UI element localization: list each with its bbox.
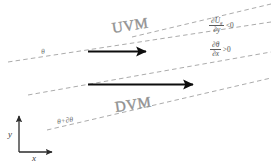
condition-theta-gradient: ∂θ ∂x >0 <box>210 41 231 58</box>
isentrope-line-3 <box>28 52 271 95</box>
fraction-denominator: ∂y <box>209 26 224 34</box>
x-axis-label: x <box>32 153 36 162</box>
fraction-dug-dy: ∂Ug ∂y <box>209 17 224 34</box>
fraction-denominator: ∂x <box>210 50 221 58</box>
isentrope-line-1 <box>132 4 271 37</box>
condition-wind-shear: ∂Ug ∂y <0 <box>209 17 234 34</box>
relation-greater-than-zero: >0 <box>223 45 231 54</box>
y-axis-label: y <box>8 129 12 139</box>
subscript-g: g <box>220 20 222 25</box>
flow-arrows <box>88 52 193 85</box>
relation-less-than-zero: <0 <box>226 21 234 30</box>
fraction-dtheta-dx: ∂θ ∂x <box>210 41 221 58</box>
coordinate-axes <box>19 116 52 152</box>
isentrope-label-theta: θ <box>40 47 45 56</box>
isentrope-line-4 <box>47 78 271 130</box>
